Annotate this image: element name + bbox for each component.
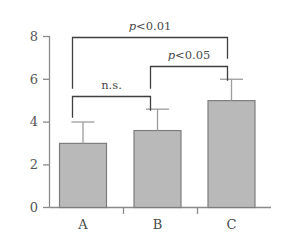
significance-label-a-b: n.s. xyxy=(82,80,142,92)
y-tick-label-0: 0 xyxy=(20,201,38,214)
y-tick-label-2: 2 xyxy=(20,158,38,171)
y-axis-ticks xyxy=(43,37,50,208)
error-bar-C xyxy=(220,79,243,100)
bar-A xyxy=(60,143,107,207)
bar-B xyxy=(134,131,181,208)
significance-label-a-c-p: p xyxy=(129,19,136,33)
y-tick-label-6: 6 xyxy=(20,73,38,86)
error-bar-B xyxy=(146,109,169,130)
significance-label-b-c: p<0.05 xyxy=(149,50,229,62)
chart-canvas xyxy=(0,0,283,245)
significance-label-b-c-value: <0.05 xyxy=(175,48,210,62)
x-tick-label-A: A xyxy=(63,218,103,231)
significance-label-a-c-value: <0.01 xyxy=(136,19,171,33)
x-tick-label-C: C xyxy=(212,218,252,231)
y-tick-label-4: 4 xyxy=(20,115,38,128)
significance-label-a-c: p<0.01 xyxy=(110,21,190,33)
significance-bracket-b-c xyxy=(151,67,228,89)
bar-C xyxy=(208,101,255,208)
significance-bracket-a-b xyxy=(73,97,151,118)
error-bar-A xyxy=(72,122,95,143)
x-tick-label-B: B xyxy=(138,218,178,231)
significance-label-b-c-p: p xyxy=(168,48,175,62)
bar-chart-figure: 8 6 4 2 0 A B C p<0.01 p<0.05 n.s. xyxy=(0,0,283,245)
y-tick-label-8: 8 xyxy=(20,30,38,43)
x-axis-ticks xyxy=(124,208,198,215)
